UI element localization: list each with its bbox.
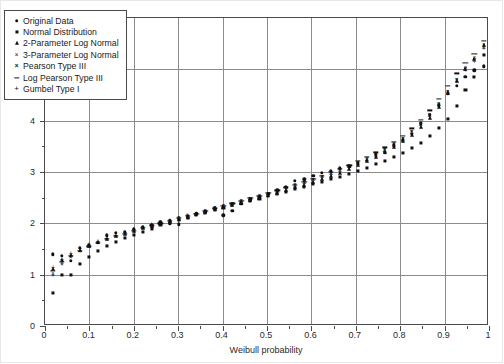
marker-square-icon (428, 135, 431, 138)
legend-item: ×Pearson Type III (10, 61, 119, 72)
y-tick-minor (42, 300, 45, 301)
marker-plus-icon: + (105, 234, 109, 241)
marker-plus-icon: + (347, 164, 351, 171)
marker-plus-icon: + (213, 205, 217, 212)
marker-plus-icon: + (168, 216, 172, 223)
legend-label: Gumbel Type I (23, 84, 79, 94)
marker-circle-icon (464, 75, 467, 78)
y-tick (40, 223, 45, 224)
legend-marker (10, 38, 23, 49)
marker-plus-icon: + (463, 66, 467, 73)
marker-square-icon (401, 151, 404, 154)
y-tick-label: 0 (30, 321, 35, 331)
marker-square-icon (338, 175, 341, 178)
marker-plus-icon: + (141, 223, 145, 230)
legend-label: Normal Distribution (23, 27, 97, 37)
marker-circle-icon (455, 84, 458, 87)
marker-plus-icon: + (221, 202, 225, 209)
marker-square-icon (348, 172, 351, 175)
marker-square-icon (60, 274, 63, 277)
marker-plus-icon: + (266, 191, 270, 198)
y-tick-minor (42, 249, 45, 250)
legend-label: Log Pearson Type III (23, 73, 103, 83)
legend-item: Original Data (10, 15, 119, 26)
x-tick-minor (289, 326, 290, 329)
marker-dash-icon (463, 62, 468, 63)
x-tick-label: 0.6 (304, 330, 317, 340)
legend-marker: + (10, 84, 23, 95)
marker-plus-icon: + (132, 226, 136, 233)
marker-plus-icon: + (329, 171, 333, 178)
marker-dash-icon (436, 99, 441, 100)
x-tick-label: 0.1 (82, 330, 95, 340)
marker-square-icon (419, 141, 422, 144)
legend-marker (10, 15, 23, 26)
x-tick-minor (112, 326, 113, 329)
marker-square-icon (374, 163, 377, 166)
legend-item: Normal Distribution (10, 26, 119, 37)
marker-plus-icon: + (230, 200, 234, 207)
x-tick-minor (200, 326, 201, 329)
marker-square-icon (79, 262, 82, 265)
x-tick-label: 0 (41, 330, 46, 340)
marker-plus-icon: + (482, 45, 486, 52)
marker-circle-icon (473, 69, 476, 72)
marker-plus-icon: + (14, 85, 19, 93)
marker-square-icon (455, 104, 458, 107)
x-tick-label: 0.3 (171, 330, 184, 340)
marker-plus-icon: + (419, 122, 423, 129)
marker-square-icon (15, 31, 18, 34)
marker-plus-icon: + (185, 212, 189, 219)
y-tick (40, 172, 45, 173)
marker-plus-icon: + (472, 57, 476, 64)
marker-plus-icon: + (410, 129, 414, 136)
marker-plus-icon: + (248, 195, 252, 202)
marker-square-icon (383, 159, 386, 162)
x-tick-minor (334, 326, 335, 329)
legend-marker (10, 27, 23, 38)
marker-plus-icon: + (446, 89, 450, 96)
chart-legend: Original DataNormal Distribution2-Parame… (4, 10, 127, 100)
marker-plus-icon: + (383, 147, 387, 154)
y-tick (40, 275, 45, 276)
marker-square-icon (87, 255, 90, 258)
marker-plus-icon: + (150, 221, 154, 228)
x-tick-label: 0.7 (349, 330, 362, 340)
marker-plus-icon: + (239, 198, 243, 205)
y-tick-label: 2 (30, 218, 35, 228)
legend-item: Log Pearson Type III (10, 72, 119, 83)
x-tick-minor (245, 326, 246, 329)
x-tick-label: 1 (485, 330, 490, 340)
marker-dash-icon (14, 77, 19, 78)
marker-dash-icon (472, 53, 477, 54)
figure-container: ××××××××××××××××××××××××××××××××××××××××… (0, 0, 504, 364)
y-tick (40, 326, 45, 327)
marker-square-icon (356, 169, 359, 172)
marker-plus-icon: + (87, 241, 91, 248)
legend-marker: × (10, 61, 23, 72)
marker-plus-icon: + (374, 152, 378, 159)
marker-square-icon (123, 237, 126, 240)
marker-square-icon (437, 127, 440, 130)
marker-square-icon (464, 89, 467, 92)
marker-plus-icon: + (455, 77, 459, 84)
y-tick-minor (42, 198, 45, 199)
marker-square-icon (329, 178, 332, 181)
x-axis-title: Weibull probability (44, 345, 488, 355)
marker-circle-icon (51, 252, 54, 255)
marker-plus-icon: + (257, 193, 261, 200)
x-tick-minor (467, 326, 468, 329)
legend-marker (10, 72, 23, 83)
y-tick (40, 121, 45, 122)
marker-triangle-icon (15, 41, 19, 45)
marker-dash-icon (481, 40, 486, 41)
marker-plus-icon: + (96, 237, 100, 244)
marker-plus-icon: + (437, 102, 441, 109)
x-tick-minor (67, 326, 68, 329)
y-tick-label: 1 (30, 270, 35, 280)
marker-plus-icon: + (194, 210, 198, 217)
marker-plus-icon: + (203, 207, 207, 214)
marker-square-icon (51, 291, 54, 294)
marker-square-icon (114, 240, 117, 243)
marker-x-bold-icon: × (51, 273, 54, 279)
